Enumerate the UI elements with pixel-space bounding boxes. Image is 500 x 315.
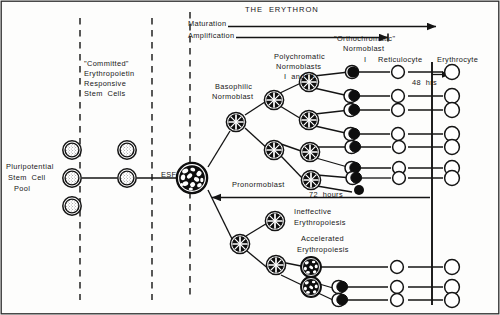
diagram-canvas — [0, 0, 500, 315]
annotation-accelerated: Accelerated — [301, 234, 344, 244]
column-label-basophilic-normoblast: Normoblast — [212, 92, 253, 102]
annotation-pluripotential: Pluripotential — [6, 162, 54, 172]
column-label-i-and-ii: I and II — [284, 72, 314, 82]
annotation-pool: Pool — [14, 184, 30, 194]
cell-committed-stem — [118, 141, 136, 187]
column-label-basophilic: Basophilic — [215, 82, 252, 92]
annotation-esf: ESF — [161, 170, 176, 180]
column-label-orthochromatic-stage-i: I — [364, 55, 366, 65]
column-label-stem-cells: Stem Cells — [84, 89, 126, 99]
column-label-committed: "Committed" — [84, 59, 129, 69]
annotation-pronormoblast: Pronormoblast — [232, 180, 285, 190]
column-label-normoblasts: Normoblasts — [276, 62, 321, 72]
column-label-responsive: Responsive — [84, 79, 126, 89]
axis-label-maturation: Maturation — [188, 19, 226, 29]
lineage-branches — [208, 82, 304, 270]
column-label-polychromatic: Polychromatic — [274, 52, 325, 62]
axis-label-amplification: Amplification — [188, 31, 234, 41]
dashed-dividers — [80, 12, 190, 300]
column-label-orthochromatic: "Orthochromatic" — [334, 34, 395, 44]
ineffective-erythropoiesis-marker — [354, 185, 364, 195]
axis-arrows — [228, 27, 436, 42]
column-label-erythrocyte: Erythrocyte — [437, 55, 478, 65]
cell-pluripotential-stem — [63, 141, 81, 215]
column-label-orthochromatic-normoblast: Normoblast — [343, 44, 384, 54]
annotation-48-hrs: 48 hrs — [412, 78, 437, 88]
column-label-erythropoietin: Erythropoietin — [84, 69, 135, 79]
cell-pronormoblast — [177, 163, 208, 194]
cell-erythrocyte — [445, 65, 460, 308]
annotation-ineffective: Ineffective — [294, 207, 331, 217]
annotation-72-hours: 72 hours — [309, 190, 343, 200]
column-label-reticulocyte: Reticulocyte — [378, 55, 422, 65]
annotation-stem-cell: Stem Cell — [8, 173, 46, 183]
erythron-diagram-figure: THE ERYTHRON Maturation Amplification "C… — [0, 0, 500, 315]
cell-accelerated-precursor — [301, 257, 321, 297]
cell-polychromatic-normoblast-ii — [299, 72, 320, 189]
annotation-accelerated-erythropoiesis: Erythropoiesis — [297, 245, 349, 255]
cell-reticulocyte — [391, 66, 406, 307]
figure-title: THE ERYTHRON — [245, 5, 319, 15]
annotation-ineffective-erythropoiesis: Erythropoiesis — [294, 218, 346, 228]
